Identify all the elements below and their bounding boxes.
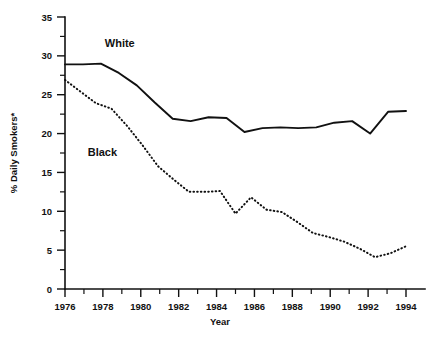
x-axis-title: Year: [210, 316, 230, 327]
y-tick-label: 0: [47, 284, 52, 295]
y-tick-label: 30: [41, 50, 52, 61]
x-tick-label: 1986: [244, 301, 265, 312]
x-axis-group: 1976197819801982198419861988199019921994…: [54, 289, 425, 327]
x-tick-label: 1994: [395, 301, 417, 312]
smoking-prevalence-line-chart: 05101520253035 % Daily Smokers* 19761978…: [0, 0, 437, 339]
x-tick-label: 1982: [168, 301, 189, 312]
y-tick-label: 15: [41, 167, 52, 178]
x-tick-label: 1992: [358, 301, 379, 312]
y-tick-label: 5: [47, 245, 53, 256]
series-inline-labels: WhiteBlack: [88, 37, 135, 159]
y-tick-label: 20: [41, 128, 52, 139]
series-line-black: [65, 80, 406, 257]
x-tick-label: 1988: [282, 301, 303, 312]
x-tick-label: 1990: [320, 301, 341, 312]
x-tick-label: 1978: [92, 301, 113, 312]
x-tick-label: 1980: [130, 301, 151, 312]
x-axis-ticks: [65, 289, 406, 297]
y-axis-group: 05101520253035 % Daily Smokers*: [8, 12, 65, 295]
y-axis-title: % Daily Smokers*: [8, 113, 19, 194]
x-axis-tick-labels: 1976197819801982198419861988199019921994: [54, 301, 417, 312]
x-tick-label: 1984: [206, 301, 228, 312]
series-label-black: Black: [88, 146, 118, 158]
x-tick-label: 1976: [54, 301, 75, 312]
y-axis-ticks: [57, 17, 65, 289]
data-series-group: [65, 64, 406, 258]
y-tick-label: 10: [41, 206, 52, 217]
y-tick-label: 35: [41, 12, 52, 23]
y-tick-label: 25: [41, 89, 52, 100]
series-line-white: [65, 64, 406, 134]
chart-container: 05101520253035 % Daily Smokers* 19761978…: [0, 0, 437, 339]
y-axis-tick-labels: 05101520253035: [41, 12, 52, 295]
series-label-white: White: [105, 37, 135, 49]
